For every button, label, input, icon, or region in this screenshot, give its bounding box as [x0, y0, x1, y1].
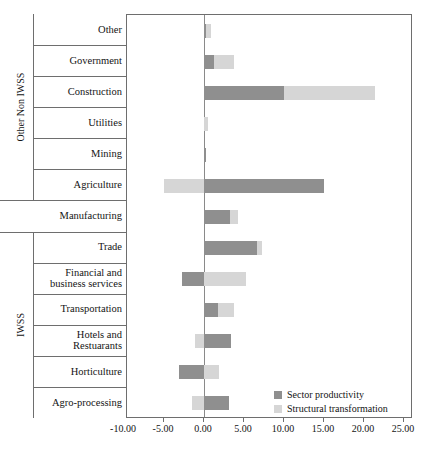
bar-segment: [204, 86, 284, 100]
bar-segment: [230, 210, 238, 224]
bar-group: [127, 334, 411, 348]
category-separator: [33, 107, 126, 108]
group-label: Other Non IWSS: [15, 73, 26, 142]
category-label: Financial andbusiness services: [0, 263, 126, 294]
legend-item: Sector productivity: [274, 388, 388, 402]
bar-segment: [218, 303, 234, 317]
category-separator: [33, 169, 126, 170]
bar-segment: [204, 334, 231, 348]
bar-segment: [206, 24, 211, 38]
category-label: Government: [0, 45, 126, 76]
category-separator: [33, 263, 126, 264]
x-axis: -10.00-5.000.005.0010.0015.0020.0025.00: [126, 418, 412, 451]
x-tick-label: 25.00: [392, 423, 415, 434]
category-label: Manufacturing: [0, 200, 126, 231]
category-label: Agriculture: [0, 169, 126, 200]
bar-segment: [204, 117, 208, 131]
bar-segment: [204, 272, 246, 286]
x-tick-label: 15.00: [312, 423, 335, 434]
plot-area: [126, 14, 412, 418]
bar-segment: [179, 365, 204, 379]
bar-chart: OtherGovernmentConstructionUtilitiesMini…: [0, 0, 423, 451]
bar-segment: [204, 396, 229, 410]
group-label: IWSS: [15, 313, 26, 337]
bar-segment: [284, 86, 375, 100]
bar-segment: [182, 272, 204, 286]
x-tick-label: 10.00: [272, 423, 295, 434]
x-tick-label: 0.00: [194, 423, 212, 434]
x-tick: [363, 418, 364, 422]
x-tick: [323, 418, 324, 422]
legend-label: Sector productivity: [287, 389, 364, 401]
bar-group: [127, 210, 411, 224]
bar-segment: [204, 365, 219, 379]
bar-segment: [204, 179, 324, 193]
legend-item: Structural transformation: [274, 402, 388, 416]
category-separator: [33, 45, 126, 46]
category-separator: [0, 200, 126, 201]
category-separator: [33, 138, 126, 139]
category-label: Agro-processing: [0, 387, 126, 418]
legend-label: Structural transformation: [287, 403, 388, 415]
bar-group: [127, 272, 411, 286]
category-separator: [0, 232, 126, 233]
x-tick-label: 5.00: [234, 423, 252, 434]
bar-segment: [192, 396, 204, 410]
x-tick: [403, 418, 404, 422]
x-tick: [243, 418, 244, 422]
chart-legend: Sector productivityStructural transforma…: [274, 388, 388, 416]
bar-group: [127, 241, 411, 255]
bar-segment: [257, 241, 263, 255]
x-tick-label: 20.00: [352, 423, 375, 434]
bar-group: [127, 148, 411, 162]
category-label: Mining: [0, 138, 126, 169]
bar-group: [127, 86, 411, 100]
bar-segment: [164, 179, 204, 193]
bar-segment: [204, 303, 218, 317]
bar-segment: [195, 334, 204, 348]
bar-segment: [214, 55, 235, 69]
legend-swatch: [274, 405, 282, 413]
category-separator: [33, 294, 126, 295]
bar-group: [127, 55, 411, 69]
category-label: Horticulture: [0, 356, 126, 387]
bar-segment: [204, 210, 230, 224]
bar-segment: [204, 148, 206, 162]
category-separator: [33, 356, 126, 357]
category-label: Other: [0, 14, 126, 45]
bar-segment: [204, 55, 214, 69]
bar-segment: [204, 241, 257, 255]
x-tick-label: -5.00: [153, 423, 174, 434]
x-tick: [163, 418, 164, 422]
group-bracket: [33, 232, 34, 418]
category-axis: OtherGovernmentConstructionUtilitiesMini…: [0, 14, 126, 418]
x-tick-label: -10.00: [110, 423, 136, 434]
bar-group: [127, 179, 411, 193]
legend-swatch: [274, 391, 282, 399]
bar-group: [127, 303, 411, 317]
category-separator: [33, 325, 126, 326]
category-separator: [33, 76, 126, 77]
bar-group: [127, 117, 411, 131]
bar-group: [127, 24, 411, 38]
category-separator: [33, 387, 126, 388]
group-bracket: [33, 14, 34, 200]
category-label: Trade: [0, 232, 126, 263]
x-tick: [203, 418, 204, 422]
bar-group: [127, 365, 411, 379]
x-tick: [283, 418, 284, 422]
